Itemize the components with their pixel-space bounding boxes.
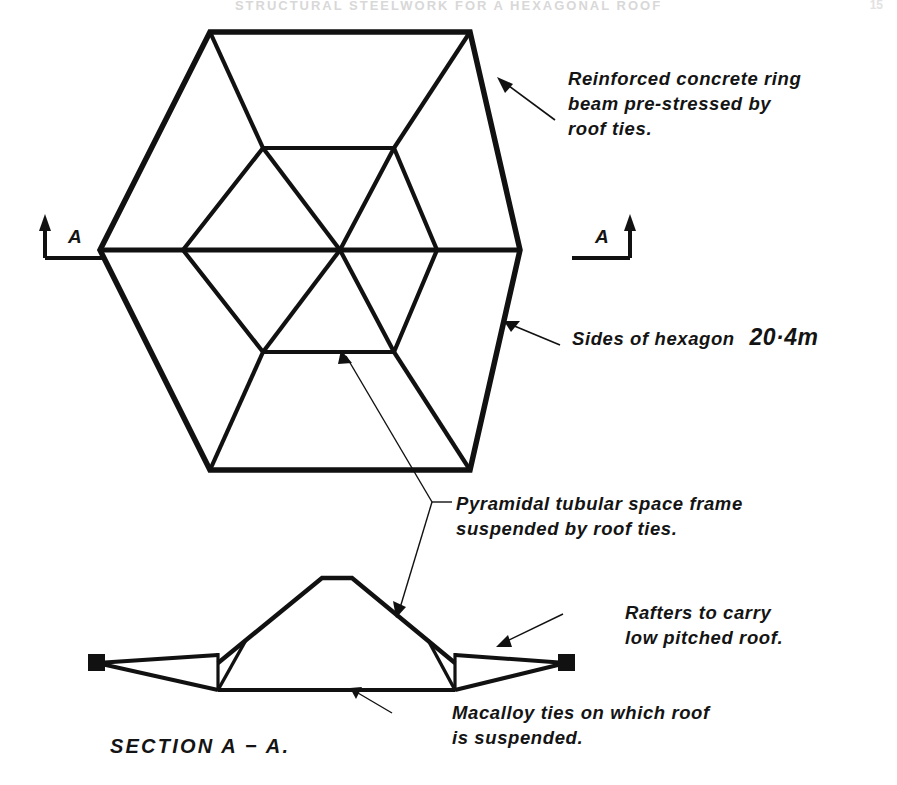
pyramid-space-frame-profile [218, 578, 455, 663]
annotation-hexagon-side-row: Sides of hexagon 20·4m [572, 325, 819, 351]
annotation-hexagon-side-label: Sides of hexagon [572, 328, 735, 349]
annotation-space-frame-line1: Pyramidal tubular space frame [456, 491, 743, 516]
roof-tie-bottom-right [394, 352, 470, 470]
annotation-space-frame: Pyramidal tubular space frame suspended … [456, 491, 743, 541]
rafter-upper-left [97, 655, 218, 663]
annotation-space-frame-line2: suspended by roof ties. [456, 516, 743, 541]
leader-macalloy-line [358, 693, 392, 713]
annotation-ring-beam: Reinforced concrete ring beam pre-stress… [568, 66, 801, 141]
support-left [88, 654, 105, 671]
macalloy-tie-left [97, 663, 218, 690]
section-marker-right-letter: A [595, 226, 609, 248]
leader-ring-beam [497, 77, 555, 120]
annotation-rafters: Rafters to carry low pitched roof. [625, 600, 783, 650]
rafter-upper-right [455, 655, 566, 663]
brace-right [428, 640, 455, 690]
support-right [558, 654, 575, 671]
leader-hexagon-side-line [512, 325, 560, 345]
leader-ring-beam-line [505, 83, 555, 120]
radial-member-sw [263, 250, 340, 352]
annotation-macalloy: Macalloy ties on which roof is suspended… [452, 700, 710, 750]
annotation-macalloy-line2: is suspended. [452, 725, 710, 750]
leader-rafters-line [503, 614, 563, 643]
radial-member-se [340, 250, 394, 352]
leader-ring-beam-arrowhead-icon [497, 77, 513, 93]
leader-space-frame-plan-line [346, 356, 432, 502]
annotation-rafters-line1: Rafters to carry [625, 600, 783, 625]
annotation-hexagon-side: Sides of hexagon 20·4m [572, 325, 819, 351]
annotation-hexagon-side-value: 20·4m [750, 324, 819, 350]
leader-rafters-arrowhead-icon [496, 635, 512, 647]
radial-member-ne [340, 148, 394, 250]
annotation-macalloy-line1: Macalloy ties on which roof [452, 700, 710, 725]
radial-member-nw [263, 148, 340, 250]
section-truss [88, 578, 575, 691]
annotation-ring-beam-line3: roof ties. [568, 116, 801, 141]
drawing-figure: STRUCTURAL STEELWORK FOR A HEXAGONAL ROO… [0, 0, 897, 785]
section-marker-right-arrowhead-icon [624, 214, 636, 231]
macalloy-tie-right [455, 663, 566, 690]
section-marker-left-arrowhead-icon [39, 214, 51, 231]
annotation-rafters-line2: low pitched roof. [625, 625, 783, 650]
leader-rafters [496, 614, 563, 647]
brace-left [218, 640, 246, 690]
annotation-ring-beam-line1: Reinforced concrete ring [568, 66, 801, 91]
leader-hexagon-side [504, 321, 560, 345]
roof-tie-bottom-left [210, 352, 263, 470]
leader-space-frame-section-line [400, 502, 432, 608]
section-marker-left-letter: A [68, 226, 82, 248]
roof-tie-top-right [394, 32, 470, 148]
section-caption: SECTION A − A. [110, 735, 290, 758]
annotation-ring-beam-line2: beam pre-stressed by [568, 91, 801, 116]
roof-tie-top-left [210, 32, 263, 148]
